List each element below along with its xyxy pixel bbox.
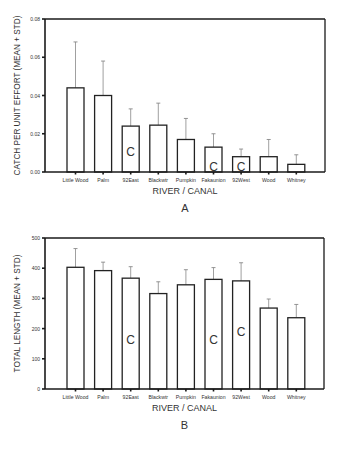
- x-tick-label: Pumpkin: [176, 394, 196, 400]
- y-tick-label: 300: [32, 295, 41, 301]
- y-tick-label: 0.02: [30, 131, 40, 137]
- y-tick-label: 0.06: [30, 54, 40, 60]
- y-tick-label: 500: [32, 235, 41, 241]
- x-tick-label: 92West: [232, 394, 250, 400]
- x-tick-label: Blackwtr: [148, 177, 168, 183]
- bar-group: Whitney: [287, 155, 306, 183]
- x-tick-label: Whitney: [287, 177, 306, 183]
- bar-group: Pumpkin: [176, 270, 196, 400]
- y-axis-title: CATCH PER UNIT EFFORT (MEAN + STD): [13, 15, 22, 175]
- y-tick-label: 0: [37, 386, 40, 392]
- y-tick-label: 0.04: [30, 93, 40, 99]
- panel-label: B: [181, 419, 188, 431]
- bar-group: 92EastC: [122, 267, 139, 400]
- y-tick-label: 0.00: [30, 169, 40, 175]
- x-tick-label: 92East: [123, 394, 140, 400]
- x-tick-label: Pumpkin: [176, 177, 196, 183]
- annotation-label: C: [209, 333, 218, 347]
- y-tick-label: 100: [32, 356, 41, 362]
- y-tick-label: 200: [32, 326, 41, 332]
- y-tick-label: 400: [32, 265, 41, 271]
- x-tick-label: Fakaunion: [201, 394, 225, 400]
- bar: [260, 157, 277, 172]
- bar-group: 92WestC: [232, 149, 250, 183]
- bar: [288, 318, 305, 389]
- bar: [95, 96, 112, 173]
- panel-label: A: [181, 202, 189, 214]
- x-tick-label: Wood: [262, 177, 276, 183]
- bar-group: Wood: [260, 299, 277, 400]
- x-tick-label: Blackwtr: [148, 394, 168, 400]
- bar: [67, 88, 84, 172]
- bar-group: Palm: [95, 262, 112, 400]
- y-axis-title: TOTAL LENGTH (MEAN + STD): [13, 254, 22, 372]
- x-tick-label: Wood: [262, 394, 276, 400]
- bar: [67, 267, 84, 389]
- x-tick-label: Palm: [97, 394, 109, 400]
- bar: [260, 308, 277, 389]
- x-axis-title: RIVER / CANAL: [152, 186, 217, 196]
- bar-group: Blackwtr: [148, 282, 168, 400]
- x-axis-title: RIVER / CANAL: [152, 403, 217, 413]
- x-tick-label: Little Wood: [63, 394, 89, 400]
- x-tick-label: Fakaunion: [201, 177, 225, 183]
- bar-group: Whitney: [287, 304, 306, 400]
- x-tick-label: 92East: [123, 177, 140, 183]
- bar: [150, 294, 167, 389]
- bar-group: Pumpkin: [176, 118, 196, 183]
- bar-group: Little Wood: [63, 42, 89, 183]
- bar: [177, 285, 194, 389]
- bar: [177, 139, 194, 172]
- bar: [288, 164, 305, 172]
- annotation-label: C: [237, 325, 246, 339]
- bar-group: FakaunionC: [201, 268, 225, 400]
- chart-b-total-length: 0100200300400500Little WoodPalm92EastCBl…: [0, 226, 342, 452]
- x-tick-label: 92West: [232, 177, 250, 183]
- bar: [95, 271, 112, 389]
- x-tick-label: Whitney: [287, 394, 306, 400]
- bar-group: FakaunionC: [201, 134, 225, 183]
- x-tick-label: Palm: [97, 177, 109, 183]
- bar: [150, 125, 167, 172]
- bar-group: Palm: [95, 61, 112, 183]
- bar-group: Blackwtr: [148, 103, 168, 183]
- y-tick-label: 0.08: [30, 16, 40, 22]
- x-tick-label: Little Wood: [63, 177, 89, 183]
- bar-group: Little Wood: [63, 249, 89, 400]
- chart-a-catch-per-unit-effort: 0.000.020.040.060.08Little WoodPalm92Eas…: [0, 0, 342, 226]
- bar-group: Wood: [260, 139, 277, 183]
- bar-group: 92WestC: [232, 263, 250, 400]
- annotation-label: C: [126, 145, 135, 159]
- annotation-label: C: [126, 333, 135, 347]
